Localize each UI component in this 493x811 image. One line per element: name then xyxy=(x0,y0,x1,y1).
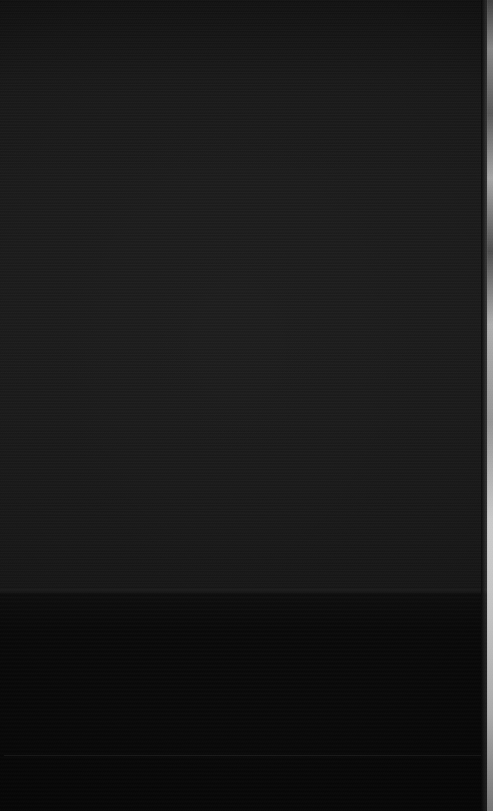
faint-horizontal-rule xyxy=(4,755,484,756)
lower-black-panel[interactable] xyxy=(0,593,493,811)
lower-panel-shading xyxy=(0,593,493,811)
upper-dark-panel[interactable] xyxy=(0,0,493,593)
upper-panel-shading xyxy=(0,0,493,593)
right-edge-feather xyxy=(481,0,488,811)
screen-capture xyxy=(0,0,493,811)
